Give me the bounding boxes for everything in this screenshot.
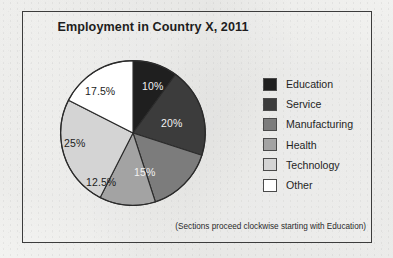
pie-slice-value-label: 20% [161,117,182,129]
legend-item: Technology [263,155,369,175]
legend-item-label: Education [286,78,333,90]
pie-chart-svg [60,60,206,206]
legend-item: Health [263,135,369,155]
chart-footnote: (Sections proceed clockwise starting wit… [170,222,366,231]
legend: EducationServiceManufacturingHealthTechn… [263,74,369,195]
legend-item-label: Manufacturing [286,118,353,130]
pie-slice-value-label: 17.5% [85,85,115,97]
pie-chart: 10%20%15%12.5%25%17.5% [60,60,206,206]
pie-slice-group [61,61,206,206]
pie-slice-value-label: 25% [64,137,85,149]
legend-item-label: Other [286,179,313,191]
legend-item-label: Health [286,139,317,151]
legend-item: Other [263,175,369,195]
legend-item: Service [263,94,369,114]
pie-slice-value-label: 12.5% [86,176,116,188]
legend-item-label: Technology [286,159,340,171]
legend-item: Manufacturing [263,114,369,134]
pie-slice-value-label: 15% [134,166,155,178]
legend-color-swatch [263,98,277,111]
legend-item: Education [263,74,369,94]
pie-slice-value-label: 10% [142,80,163,92]
legend-color-swatch [263,78,277,91]
legend-color-swatch [263,118,277,131]
legend-color-swatch [263,158,277,171]
chart-title: Employment in Country X, 2011 [28,20,278,34]
legend-item-label: Service [286,98,321,110]
legend-color-swatch [263,179,277,192]
legend-color-swatch [263,138,277,151]
